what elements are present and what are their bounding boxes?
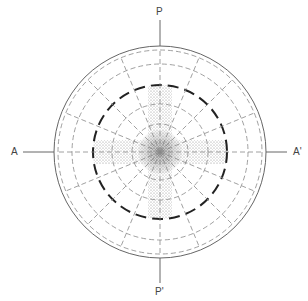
conoscopic-figure-diagram bbox=[0, 0, 308, 301]
label-p-top: P bbox=[156, 7, 163, 17]
label-a-left: A bbox=[11, 147, 18, 157]
label-p-bottom: P' bbox=[155, 287, 164, 297]
label-a-right: A' bbox=[293, 147, 302, 157]
radial-lines bbox=[58, 50, 262, 254]
